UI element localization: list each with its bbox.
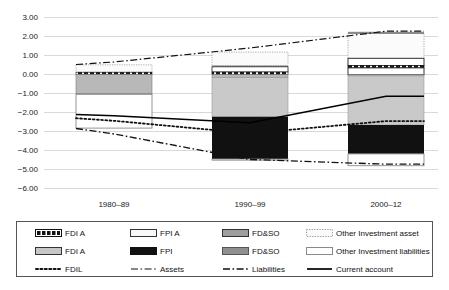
legend-label: Liabilities [252, 265, 285, 274]
legend-label: Current account [336, 265, 393, 274]
legend-item-fdso-asset[interactable]: FD&SO [222, 224, 280, 242]
legend-label: Assets [160, 265, 184, 274]
y-tick-label: −4.00 [4, 146, 38, 155]
dotted-line-icon [35, 265, 62, 273]
bar-seg-fdi-a-liab-1 [76, 75, 152, 94]
white-box-outline-icon [306, 247, 333, 255]
y-tick-label: −6.00 [4, 184, 38, 193]
bar-seg-fdi-a-asset-2 [212, 72, 288, 75]
legend-item-fdi-a-asset[interactable]: FDI A [35, 224, 85, 242]
legend-row-lines: FDIL Assets Liabilities Current account [17, 260, 432, 278]
y-tick-label: 2.00 [4, 32, 38, 41]
y-tick-label: −5.00 [4, 165, 38, 174]
bar-seg-fpi-a-asset-3 [348, 58, 424, 65]
bar-seg-fdso-liab-3 [348, 76, 424, 125]
chart-plot-area: 3.00 2.00 1.00 0.00 −1.00 −2.00 −3.00 −4… [0, 0, 449, 216]
y-tick-label: −3.00 [4, 127, 38, 136]
x-tick-label-1980-89: 1980–89 [74, 200, 154, 210]
bar-seg-fdso-asset-3 [348, 32, 424, 34]
bar-seg-fpi-liab-3 [348, 125, 424, 154]
dash-dot-line-icon [222, 265, 249, 273]
legend-label: FDIL [65, 265, 82, 274]
y-tick-label: 1.00 [4, 51, 38, 60]
bar-seg-fdi-a-asset-1 [76, 72, 152, 74]
chart-root: 3.00 2.00 1.00 0.00 −1.00 −2.00 −3.00 −4… [0, 0, 449, 290]
gray-box-icon [222, 247, 249, 255]
legend-label: FPI [160, 247, 172, 256]
solid-line-icon [306, 265, 333, 273]
x-tick-label-2000-12: 2000–12 [346, 200, 426, 210]
bar-seg-other-inv-asset-2 [212, 52, 288, 66]
legend-label: Other Investment liabilities [336, 247, 430, 256]
chart-svg [0, 0, 449, 216]
white-box-icon [130, 229, 157, 237]
x-tick-label-1990-99: 1990–99 [210, 200, 290, 210]
legend-item-fpi-liability[interactable]: FPI [130, 242, 172, 260]
bar-seg-other-inv-asset-1 [76, 65, 152, 72]
legend-item-other-investment-asset[interactable]: Other Investment asset [306, 224, 419, 242]
bar-group-1980-89 [76, 65, 152, 128]
gray-box-dark-icon [222, 229, 249, 237]
legend-row-liabilities: FDI A FPI FD&SO Other Investment liabili… [17, 242, 432, 260]
lightgray-box-icon [35, 247, 62, 255]
y-tick-label: −1.00 [4, 89, 38, 98]
legend-row-assets: FDI A FPI A FD&SO Other Investment asset [17, 224, 432, 242]
legend-label: FDI A [65, 247, 85, 256]
black-box-icon [130, 247, 157, 255]
legend-item-assets[interactable]: Assets [130, 260, 184, 278]
y-tick-label: −2.00 [4, 108, 38, 117]
legend-item-current-account[interactable]: Current account [306, 260, 393, 278]
legend-label: FD&SO [252, 247, 280, 256]
dotted-box-light-icon [306, 229, 333, 237]
bar-seg-fdso-liab-2 [212, 78, 288, 117]
bar-group-1990-99 [212, 52, 288, 160]
y-tick-label: 0.00 [4, 70, 38, 79]
bar-seg-other-inv-liab-2 [212, 159, 288, 160]
y-tick-label: 3.00 [4, 13, 38, 22]
bar-seg-fdi-a-asset-3-inner [348, 68, 424, 75]
dash-dot-line-icon [130, 265, 157, 273]
bar-group-2000-12 [348, 32, 424, 166]
chart-legend: FDI A FPI A FD&SO Other Investment asset [16, 221, 433, 277]
dashed-box-dark-icon [35, 229, 62, 237]
legend-item-liabilities[interactable]: Liabilities [222, 260, 285, 278]
legend-label: Other Investment asset [336, 229, 419, 238]
bar-seg-fpi-a-asset-2 [212, 67, 288, 72]
legend-label: FDI A [65, 229, 85, 238]
legend-label: FD&SO [252, 229, 280, 238]
legend-item-fdil[interactable]: FDIL [35, 260, 82, 278]
legend-item-fdso-liability[interactable]: FD&SO [222, 242, 280, 260]
bar-seg-other-inv-asset-3 [348, 33, 424, 58]
legend-item-other-investment-liabilities[interactable]: Other Investment liabilities [306, 242, 430, 260]
bar-seg-fdi-a-liab-2 [212, 75, 288, 78]
legend-item-fpi-a-asset[interactable]: FPI A [130, 224, 180, 242]
legend-label: FPI A [160, 229, 180, 238]
legend-item-fdi-a-liability[interactable]: FDI A [35, 242, 85, 260]
